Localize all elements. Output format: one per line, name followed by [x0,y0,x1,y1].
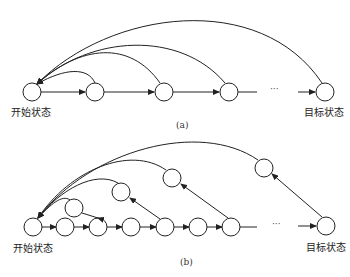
ellipsis-b: ··· [272,219,281,229]
node-start-a [23,83,41,101]
caption-b: (b) [180,257,193,267]
diagram-canvas [0,0,350,277]
node-goal-b [317,217,335,235]
node-start-b [24,218,42,236]
ellipsis-a: ··· [270,84,279,94]
node-a-2 [86,83,104,101]
goal-label-a: 目标状态 [304,104,344,119]
node-goal-a [316,83,334,101]
goal-label-b: 目标状态 [306,239,346,254]
start-label-b: 开始状态 [13,240,53,255]
node-a-3 [155,83,173,101]
start-label-a: 开始状态 [11,104,51,119]
caption-a: (a) [176,120,188,130]
node-a-4 [220,83,238,101]
diagram-b-nodes [24,159,335,236]
